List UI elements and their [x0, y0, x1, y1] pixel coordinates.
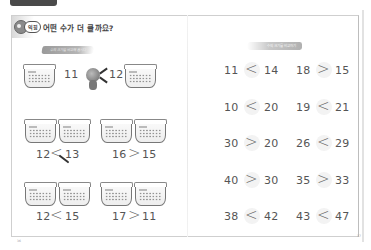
- comparison-symbol[interactable]: <: [245, 208, 258, 223]
- bead-jar-icon: [101, 184, 132, 206]
- comparison-symbol[interactable]: >: [245, 172, 258, 187]
- comparison-symbol[interactable]: <: [50, 208, 63, 223]
- comparison-symbol[interactable]: >: [317, 62, 330, 77]
- page-number-right: 37: [357, 234, 361, 238]
- comparison-symbol[interactable]: >: [245, 135, 258, 150]
- problem-right-number: 47: [335, 210, 350, 223]
- bead-jar-icon: [59, 184, 90, 206]
- problem-right-number: 13: [65, 148, 80, 161]
- bead-jar-icon: [24, 66, 55, 88]
- example-left-number: 11: [64, 68, 79, 81]
- bead-jar-icon: [25, 121, 56, 143]
- page-fold: [187, 15, 188, 237]
- comparison-symbol[interactable]: <: [50, 146, 63, 161]
- page-edge: [362, 10, 364, 242]
- problem-right-number: 29: [335, 137, 350, 150]
- problem-left-number: 38: [224, 210, 239, 223]
- problem-right-number: 33: [335, 174, 350, 187]
- problem-left-number: 35: [296, 174, 311, 187]
- problem-right-number: 21: [335, 101, 350, 114]
- problem-left-number: 16: [112, 148, 127, 161]
- problem-left-number: 10: [224, 101, 239, 114]
- comparison-symbol[interactable]: <: [317, 99, 330, 114]
- bird-body-icon: [89, 80, 97, 90]
- problem-right-number: 15: [335, 64, 350, 77]
- step-badge: 익힘: [24, 21, 41, 33]
- problem-left-number: 18: [296, 64, 311, 77]
- title-squiggle-icon: [102, 26, 110, 29]
- comparison-symbol[interactable]: <: [317, 135, 330, 150]
- bead-jar-icon: [25, 184, 56, 206]
- bead-jar-icon: [135, 121, 166, 143]
- problem-left-number: 11: [224, 64, 239, 77]
- comparison-symbol[interactable]: >: [128, 146, 141, 161]
- comparison-symbol[interactable]: >: [128, 208, 141, 223]
- comparison-symbol[interactable]: <: [245, 99, 258, 114]
- problem-left-number: 43: [296, 210, 311, 223]
- bead-jar-icon: [59, 121, 90, 143]
- problem-left-number: 12: [36, 210, 51, 223]
- instruction-bubble-left: 수의 크기를 비교해 봅시다: [41, 46, 94, 54]
- problem-right-number: 20: [264, 137, 279, 150]
- problem-right-number: 15: [65, 210, 80, 223]
- comparison-symbol[interactable]: <: [317, 208, 330, 223]
- bead-jar-icon: [101, 121, 132, 143]
- problem-right-number: 42: [264, 210, 279, 223]
- bead-jar-icon: [135, 184, 166, 206]
- problem-left-number: 12: [36, 148, 51, 161]
- problem-left-number: 26: [296, 137, 311, 150]
- problem-right-number: 11: [142, 210, 157, 223]
- bead-jar-icon: [125, 66, 156, 88]
- comparison-symbol[interactable]: <: [245, 62, 258, 77]
- problem-left-number: 40: [224, 174, 239, 187]
- problem-left-number: 30: [224, 137, 239, 150]
- problem-right-number: 30: [264, 174, 279, 187]
- problem-right-number: 14: [264, 64, 279, 77]
- problem-right-number: 20: [264, 101, 279, 114]
- problem-left-number: 17: [112, 210, 127, 223]
- example-right-number: 12: [109, 68, 124, 81]
- problem-left-number: 19: [296, 101, 311, 114]
- instruction-bubble-right: 수의 크기를 비교하기: [247, 42, 302, 50]
- problem-right-number: 15: [142, 148, 157, 161]
- chapter-tab: [10, 0, 57, 6]
- page-number-left: 36: [17, 239, 21, 243]
- comparison-symbol[interactable]: >: [317, 172, 330, 187]
